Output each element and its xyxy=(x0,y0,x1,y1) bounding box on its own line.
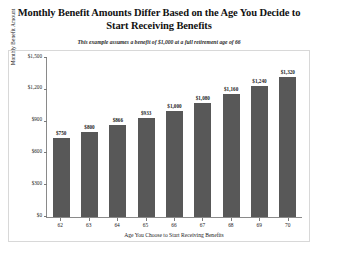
x-tick-label: 66 xyxy=(160,222,188,228)
bar: $1,240 xyxy=(251,86,268,217)
bar-value-label: $866 xyxy=(113,117,123,123)
bar: $866 xyxy=(109,125,126,217)
y-tick: $600 xyxy=(21,152,47,153)
bar-value-label: $933 xyxy=(141,110,151,116)
x-tick-mark xyxy=(174,218,175,221)
y-tick: $1,200 xyxy=(21,89,47,90)
y-tick: $300 xyxy=(21,184,47,185)
bar-slot: $750 xyxy=(47,58,75,217)
source-note: Source: http://www.ssa.gov/pubs/10147.ht… xyxy=(340,0,352,6)
bar-value-label: $1,240 xyxy=(252,78,266,84)
y-tick-label: $600 xyxy=(32,148,42,154)
chart-figure: Monthly Benefit Amounts Differ Based on … xyxy=(0,0,318,260)
bar-value-label: $1,160 xyxy=(224,86,238,92)
x-tick-label: 68 xyxy=(217,222,245,228)
chart-title: Monthly Benefit Amounts Differ Based on … xyxy=(16,6,302,32)
y-tick-label: $300 xyxy=(32,180,42,186)
x-tick-label: 62 xyxy=(46,222,74,228)
x-axis-ticks: 626364656667686970 xyxy=(46,218,302,230)
x-tick-mark xyxy=(117,218,118,221)
plot-area: $0$300$600$900$1,200$1,500 $750$800$866$… xyxy=(46,58,302,218)
bar-slot: $933 xyxy=(132,58,160,217)
x-tick-mark xyxy=(89,218,90,221)
bar-value-label: $800 xyxy=(84,124,94,130)
y-tick-label: $1,500 xyxy=(28,53,42,59)
bar: $800 xyxy=(81,132,98,217)
bar-slot: $1,240 xyxy=(245,58,273,217)
x-tick-label: 70 xyxy=(274,222,302,228)
x-axis-title: Age You Choose to Start Receiving Benefi… xyxy=(46,232,302,238)
bar: $933 xyxy=(138,118,155,217)
bar: $1,080 xyxy=(194,103,211,217)
bar-value-label: $1,080 xyxy=(196,95,210,101)
y-tick: $900 xyxy=(21,121,47,122)
bar-value-label: $1,000 xyxy=(167,103,181,109)
x-tick: 65 xyxy=(131,218,159,230)
chart-subtitle: This example assumes a benefit of $1,000… xyxy=(16,38,302,47)
bar-slot: $1,320 xyxy=(274,58,302,217)
bar-slot: $800 xyxy=(75,58,103,217)
x-tick-mark xyxy=(259,218,260,221)
bar: $750 xyxy=(53,138,70,218)
x-tick: 68 xyxy=(217,218,245,230)
x-tick-mark xyxy=(146,218,147,221)
x-tick: 66 xyxy=(160,218,188,230)
x-tick: 63 xyxy=(74,218,102,230)
x-tick-mark xyxy=(60,218,61,221)
x-tick-label: 67 xyxy=(188,222,216,228)
y-tick-label: $0 xyxy=(37,212,42,218)
x-tick-mark xyxy=(288,218,289,221)
title-block: Monthly Benefit Amounts Differ Based on … xyxy=(0,0,318,47)
bar-slot: $1,000 xyxy=(160,58,188,217)
y-tick-label: $900 xyxy=(32,116,42,122)
bar-value-label: $750 xyxy=(56,130,66,136)
y-tick-label: $1,200 xyxy=(28,84,42,90)
bar-slot: $1,160 xyxy=(217,58,245,217)
plot-axes: $0$300$600$900$1,200$1,500 $750$800$866$… xyxy=(46,58,302,218)
bar-value-label: $1,320 xyxy=(281,69,295,75)
y-axis-title: Monthly Benefit Amount xyxy=(10,0,20,92)
x-tick-label: 64 xyxy=(103,222,131,228)
x-tick-label: 65 xyxy=(131,222,159,228)
x-tick-label: 69 xyxy=(245,222,273,228)
x-tick: 62 xyxy=(46,218,74,230)
x-tick: 70 xyxy=(274,218,302,230)
bar: $1,320 xyxy=(279,77,296,217)
y-tick: $0 xyxy=(21,216,47,217)
bar: $1,160 xyxy=(223,94,240,217)
bar-slot: $866 xyxy=(104,58,132,217)
bar-series: $750$800$866$933$1,000$1,080$1,160$1,240… xyxy=(47,58,302,217)
bar-slot: $1,080 xyxy=(189,58,217,217)
y-tick: $1,500 xyxy=(21,57,47,58)
x-tick-mark xyxy=(231,218,232,221)
x-tick-mark xyxy=(202,218,203,221)
x-tick: 67 xyxy=(188,218,216,230)
x-tick: 64 xyxy=(103,218,131,230)
x-tick-label: 63 xyxy=(74,222,102,228)
x-tick: 69 xyxy=(245,218,273,230)
bar: $1,000 xyxy=(166,111,183,217)
